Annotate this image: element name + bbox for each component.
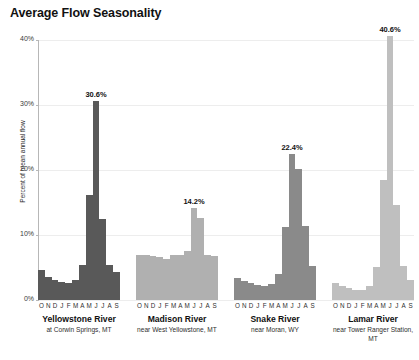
- bar-fill: [38, 270, 45, 300]
- bar-fill: [163, 259, 170, 300]
- x-axis-tick-label: J: [93, 302, 100, 309]
- x-axis-tick-label: S: [407, 302, 414, 309]
- bar-fill: [248, 283, 255, 300]
- x-axis-tick-label: J: [156, 302, 163, 309]
- x-axis-tick-label: O: [234, 302, 241, 309]
- bar-fill: [106, 265, 113, 300]
- panel-caption: Madison Rivernear West Yellowstone, MT: [136, 314, 218, 334]
- x-axis-tick-label: J: [197, 302, 204, 309]
- x-axis-tick-label: J: [99, 302, 106, 309]
- x-axis-tick-label: O: [136, 302, 143, 309]
- y-axis-tick-label: 0%: [24, 295, 34, 302]
- x-axis-tick-label: D: [346, 302, 353, 309]
- bar-fill: [380, 180, 387, 300]
- x-axis-month-labels: ONDJFMAMJJAS: [234, 302, 316, 309]
- x-axis-tick-label: J: [295, 302, 302, 309]
- x-axis-tick-label: O: [38, 302, 45, 309]
- y-axis-tick-label: 20%: [20, 165, 34, 172]
- bar-fill: [211, 256, 218, 300]
- x-axis-tick-label: A: [302, 302, 309, 309]
- x-axis-tick-label: A: [204, 302, 211, 309]
- bar-fill: [86, 195, 93, 300]
- chart-panel: 30.6%ONDJFMAMJJASYellowstone Riverat Cor…: [38, 40, 120, 300]
- plot-area: 0%10%20%30%40% 30.6%ONDJFMAMJJASYellowst…: [38, 40, 414, 300]
- y-axis-tick-label: 40%: [20, 35, 34, 42]
- chart-panel: 22.4%ONDJFMAMJJASSnake Rivernear Moran, …: [234, 40, 316, 300]
- x-axis-tick-label: F: [65, 302, 72, 309]
- x-axis-tick-label: S: [113, 302, 120, 309]
- x-axis-tick-label: D: [52, 302, 59, 309]
- bar-fill: [359, 290, 366, 300]
- x-axis-tick-label: F: [359, 302, 366, 309]
- bar-group: [38, 40, 120, 300]
- x-axis-tick-label: D: [248, 302, 255, 309]
- x-axis-tick-label: J: [289, 302, 296, 309]
- bar-fill: [52, 280, 59, 300]
- bar-fill: [45, 277, 52, 300]
- panel-station-name: Lamar River: [332, 314, 414, 325]
- bar-fill: [366, 286, 373, 300]
- x-axis-tick-label: A: [106, 302, 113, 309]
- panel-station-name: Snake River: [234, 314, 316, 325]
- bar-fill: [295, 169, 302, 300]
- x-axis-tick-label: N: [241, 302, 248, 309]
- bar-fill: [387, 36, 394, 300]
- x-axis-tick-label: J: [58, 302, 65, 309]
- bar-fill: [177, 255, 184, 300]
- x-axis-tick-label: M: [380, 302, 387, 309]
- x-axis-tick-label: A: [400, 302, 407, 309]
- chart-root: Average Flow Seasonality Percent of mean…: [0, 0, 419, 360]
- chart-panel: 40.6%ONDJFMAMJJASLamar Rivernear Tower R…: [332, 40, 414, 300]
- x-axis-tick-label: J: [191, 302, 198, 309]
- bar-fill: [332, 283, 339, 300]
- bar-fill: [191, 208, 198, 300]
- x-axis-month-labels: ONDJFMAMJJAS: [38, 302, 120, 309]
- panel-station-location: near Moran, WY: [234, 325, 316, 334]
- panel-station-name: Yellowstone River: [38, 314, 120, 325]
- y-axis-tick-label: 10%: [20, 230, 34, 237]
- bar-fill: [58, 282, 65, 300]
- x-axis-tick-label: J: [352, 302, 359, 309]
- x-axis-month-labels: ONDJFMAMJJAS: [136, 302, 218, 309]
- bar-fill: [302, 226, 309, 300]
- bar-fill: [156, 257, 163, 300]
- page-title: Average Flow Seasonality: [10, 6, 161, 20]
- bar-fill: [72, 280, 79, 300]
- x-axis-tick-label: S: [309, 302, 316, 309]
- x-axis-tick-label: N: [339, 302, 346, 309]
- y-axis-tick-mark: [36, 300, 39, 301]
- x-axis-tick-label: A: [275, 302, 282, 309]
- x-axis-tick-label: J: [393, 302, 400, 309]
- chart-panel: 14.2%ONDJFMAMJJASMadison Rivernear West …: [136, 40, 218, 300]
- x-axis-tick-label: M: [282, 302, 289, 309]
- bar-fill: [113, 272, 120, 300]
- panel-caption: Yellowstone Riverat Corwin Springs, MT: [38, 314, 120, 334]
- bar-fill: [170, 255, 177, 301]
- bar-fill: [143, 255, 150, 300]
- panel-station-location: near Tower Ranger Station, MT: [332, 325, 414, 343]
- x-axis-tick-label: D: [150, 302, 157, 309]
- panel-caption: Lamar Rivernear Tower Ranger Station, MT: [332, 314, 414, 343]
- x-axis-tick-label: M: [184, 302, 191, 309]
- bar-group: [234, 40, 316, 300]
- bar-fill: [261, 286, 268, 300]
- gridline: 0%: [38, 300, 414, 301]
- x-axis-tick-label: N: [45, 302, 52, 309]
- y-axis-label: Percent of mean annual flow: [19, 87, 26, 237]
- bar-fill: [393, 205, 400, 300]
- bar-fill: [234, 278, 241, 300]
- panel-caption: Snake Rivernear Moran, WY: [234, 314, 316, 334]
- peak-value-label: 40.6%: [379, 25, 400, 34]
- x-axis-tick-label: O: [332, 302, 339, 309]
- x-axis-tick-label: A: [373, 302, 380, 309]
- bar-fill: [268, 284, 275, 300]
- x-axis-tick-label: J: [387, 302, 394, 309]
- x-axis-tick-label: F: [163, 302, 170, 309]
- bar-fill: [93, 101, 100, 300]
- bar-fill: [204, 255, 211, 301]
- bar-fill: [65, 283, 72, 300]
- x-axis-tick-label: M: [86, 302, 93, 309]
- bar-fill: [373, 267, 380, 300]
- bar-fill: [99, 219, 106, 300]
- bar-fill: [197, 218, 204, 300]
